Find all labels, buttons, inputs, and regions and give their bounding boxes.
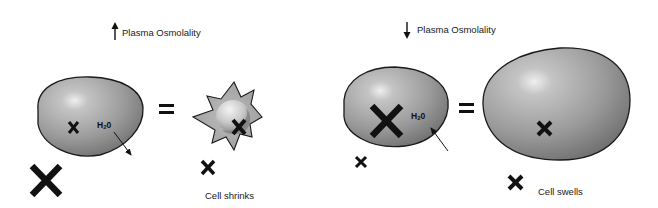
- up-arrow-icon: [112, 22, 119, 40]
- right-title-label: Plasma Osmolality: [417, 25, 496, 35]
- equals-sign: [159, 104, 174, 114]
- h2o-tail: 0: [420, 111, 425, 121]
- solute-marker-outside-small: [356, 157, 366, 167]
- left-h2o-label: H20: [97, 121, 111, 130]
- cell-after-shrunk: [193, 82, 262, 150]
- solute-marker-outside-large: [32, 166, 60, 195]
- right-h2o-label: H20: [411, 112, 425, 121]
- solute-marker-outside-small: [509, 176, 522, 189]
- water-inflow-arrow-icon: [431, 128, 448, 151]
- osmolality-diagram: [0, 0, 658, 208]
- panel-decreased-osmolality: [344, 22, 630, 189]
- equals-sign: [459, 103, 474, 113]
- left-caption: Cell shrinks: [205, 191, 254, 201]
- cell-before-shrink: [38, 77, 143, 156]
- solute-marker-outside-small: [202, 161, 214, 174]
- down-arrow-icon: [404, 22, 411, 39]
- right-caption: Cell swells: [538, 187, 583, 197]
- panel-increased-osmolality: [32, 22, 262, 195]
- cell-after-swollen: [483, 48, 630, 160]
- h2o-tail: 0: [106, 120, 111, 130]
- left-title-label: Plasma Osmolality: [122, 28, 201, 38]
